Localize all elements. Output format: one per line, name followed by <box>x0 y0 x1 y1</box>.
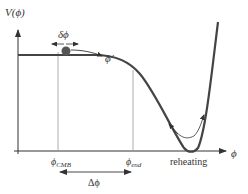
inflaton-ball <box>62 47 71 56</box>
phi-end-label: ϕend <box>126 156 142 169</box>
potential-curve <box>18 22 218 152</box>
y-axis-label: V(ϕ) <box>5 6 25 19</box>
potential-diagram: V(ϕ) ϕ δϕ ϕ̇ ϕCMB ϕend Δϕ reheating <box>0 0 248 194</box>
reheating-label: reheating <box>170 156 207 167</box>
phi-cmb-label: ϕCMB <box>51 156 72 169</box>
oscillation-arrow-back <box>169 124 178 134</box>
delta-phi-label: δϕ <box>58 28 69 40</box>
delta-big-phi-label: Δϕ <box>88 177 100 188</box>
x-axis-label: ϕ <box>231 147 237 159</box>
